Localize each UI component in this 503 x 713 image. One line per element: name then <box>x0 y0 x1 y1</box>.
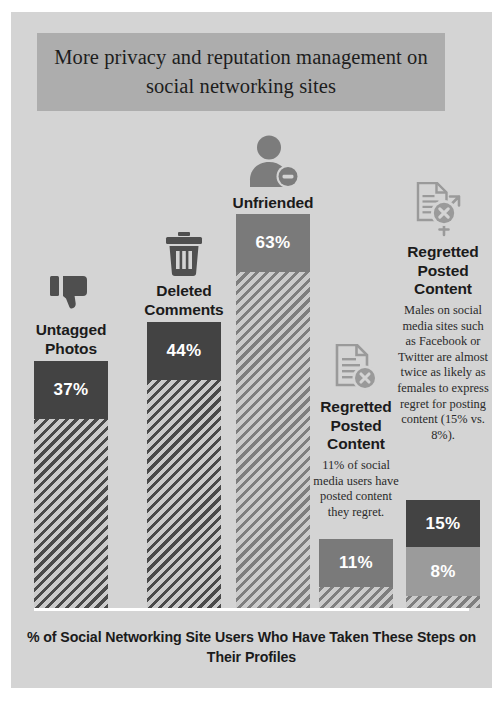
bar-unfriended-someone: 63% <box>236 214 310 608</box>
bar-cap-unfriended-someone: 63% <box>236 214 310 272</box>
note-regretted-content: 11% of social media users have posted co… <box>312 458 400 520</box>
bar-column-unfriended-someone: Unfriended Someone 63% <box>236 110 310 608</box>
note-regretted-content-gender: Males on social media sites such as Face… <box>397 303 489 443</box>
document-x-icon <box>334 344 378 392</box>
bar-regretted-content-gender: 15% 8% <box>406 500 480 608</box>
person-minus-icon <box>245 135 301 189</box>
axis-baseline <box>34 608 469 611</box>
bar-cap-deleted-comments: 44% <box>147 322 221 380</box>
page-title: More privacy and reputation management o… <box>37 43 445 101</box>
bar-body-regretted-content-gender <box>406 596 480 608</box>
bar-body-regretted-content <box>319 587 393 608</box>
bar-body-untagged-photos <box>34 419 108 608</box>
document-x-gender-icon-wrap <box>406 182 480 238</box>
category-label-deleted-comments: Deleted Comments <box>141 282 227 319</box>
category-label-regretted-content-gender: Regretted Posted Content <box>398 243 488 299</box>
title-band: More privacy and reputation management o… <box>37 33 445 111</box>
chart-area: Untagged Photos 37% <box>11 110 492 610</box>
person-minus-icon-wrap <box>236 135 310 189</box>
trash-can-icon <box>165 232 203 276</box>
bar-column-regretted-content: Regretted Posted Content 11% of social m… <box>319 110 393 608</box>
thumbs-down-icon-wrap <box>34 274 108 316</box>
bar-value-untagged-photos: 37% <box>54 380 89 400</box>
bar-value-males: 15% <box>426 514 461 534</box>
bar-body-unfriended-someone <box>236 272 310 608</box>
bar-segment-males: 15% <box>406 500 480 547</box>
thumbs-down-icon <box>49 274 93 316</box>
document-x-gender-icon <box>414 182 472 238</box>
category-label-untagged-photos: Untagged Photos <box>34 321 108 358</box>
bar-value-females: 8% <box>430 562 455 582</box>
bar-column-untagged-photos: Untagged Photos 37% <box>34 110 108 608</box>
bar-column-regretted-content-gender: Regretted Posted Content Males on social… <box>406 110 480 608</box>
bar-body-deleted-comments <box>147 380 221 608</box>
bar-value-deleted-comments: 44% <box>167 341 202 361</box>
bar-segment-females: 8% <box>406 547 480 596</box>
bar-value-regretted-content: 11% <box>339 553 373 573</box>
category-label-regretted-content: Regretted Posted Content <box>307 398 405 454</box>
bar-untagged-photos: 37% <box>34 361 108 608</box>
bar-column-deleted-comments: Deleted Comments 44% <box>147 110 221 608</box>
bar-value-unfriended-someone: 63% <box>256 233 291 253</box>
bar-deleted-comments: 44% <box>147 322 221 608</box>
chart-caption: % of Social Networking Site Users Who Ha… <box>11 627 492 667</box>
document-x-icon-wrap <box>319 344 393 392</box>
bar-regretted-content: 11% <box>319 539 393 608</box>
bar-cap-regretted-content: 11% <box>319 539 393 587</box>
infographic-root: More privacy and reputation management o… <box>0 0 503 713</box>
trash-can-icon-wrap <box>147 232 221 276</box>
bar-cap-untagged-photos: 37% <box>34 361 108 419</box>
